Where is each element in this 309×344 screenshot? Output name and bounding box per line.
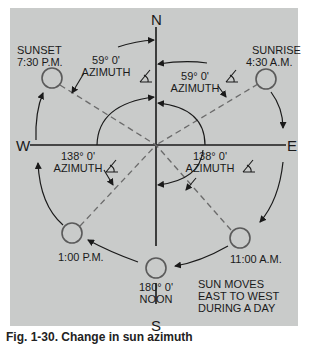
one-pm-azimuth-label: 138° 0' AZIMUTH [48, 150, 108, 174]
one-pm-sun-icon [62, 223, 82, 243]
sun-movement-note: SUN MOVES EAST TO WEST DURING A DAY [198, 278, 279, 314]
north-label: N [151, 12, 162, 27]
angle-icon [243, 160, 255, 172]
sunrise-sun-icon [256, 69, 276, 89]
figure-caption: Fig. 1-30. Change in sun azimuth [6, 330, 193, 344]
sunset-azimuth-label: 59° 0' AZIMUTH [76, 54, 136, 78]
eleven-am-label: 11:00 A.M. [230, 253, 282, 265]
one-pm-label: 1:00 P.M. [58, 251, 104, 263]
sunrise-time: 4:30 A.M. [246, 56, 292, 68]
sunset-label: SUNSET 7:30 P.M. [17, 44, 63, 68]
east-label: E [287, 138, 297, 153]
sunrise-azimuth-label: 59° 0' AZIMUTH [165, 70, 225, 94]
sunset-sun-icon [42, 68, 62, 88]
eleven-am-sun-icon [230, 228, 250, 248]
sunrise-label: SUNRISE [252, 44, 301, 56]
noon-sun-icon [146, 258, 166, 278]
west-label: W [16, 138, 30, 153]
angle-icon [140, 70, 152, 82]
noon-label: 180° 0' NOON [130, 281, 182, 305]
angle-icon [226, 70, 238, 82]
eleven-am-azimuth-label: 138° 0' AZIMUTH [180, 150, 240, 174]
